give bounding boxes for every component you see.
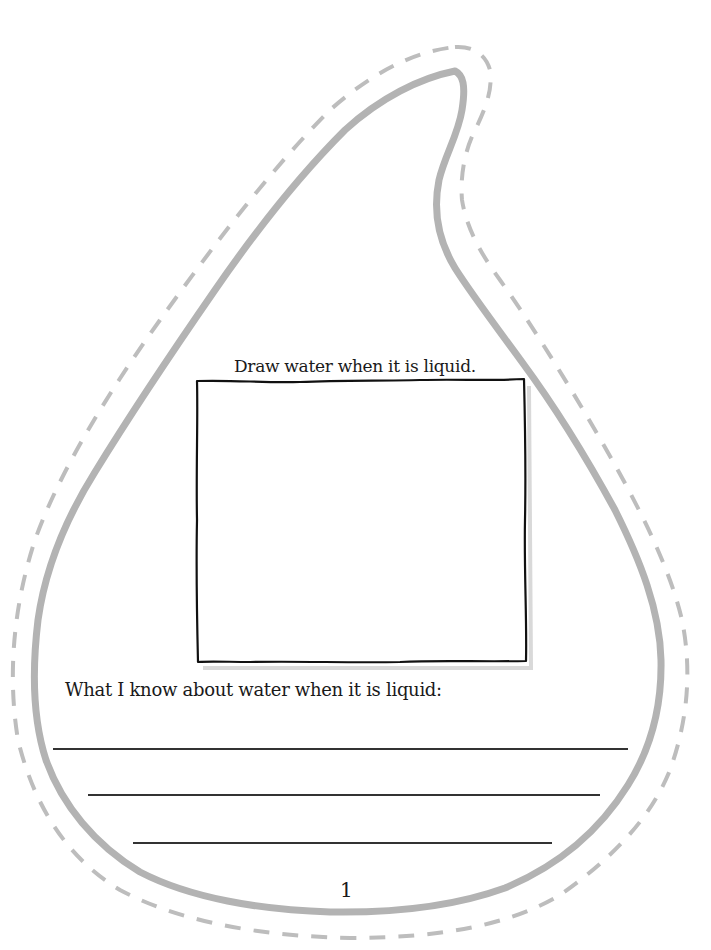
writing-line-3[interactable]: [133, 842, 552, 844]
writing-line-1[interactable]: [53, 748, 628, 750]
write-prompt: What I know about water when it is liqui…: [65, 679, 442, 700]
page-number: 1: [340, 878, 353, 902]
draw-box[interactable]: [197, 379, 527, 662]
draw-prompt: Draw water when it is liquid.: [234, 356, 476, 376]
writing-line-2[interactable]: [88, 794, 600, 796]
drop-outline-art: [0, 0, 711, 950]
